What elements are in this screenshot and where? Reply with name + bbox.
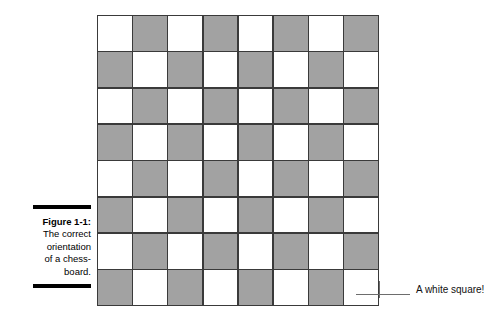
board-square-r1-c1 [98,16,132,51]
board-square-r7-c6 [274,234,308,269]
callout-tick-mark [379,281,380,298]
board-square-r1-c8 [344,16,378,51]
board-square-r6-c2 [133,198,167,233]
board-square-r1-c4 [204,16,238,51]
board-square-r1-c7 [309,16,343,51]
board-square-r8-c1 [98,270,132,305]
board-square-r8-c5 [239,270,273,305]
board-square-r4-c8 [344,125,378,160]
board-square-r5-c3 [168,161,202,196]
board-square-r8-c3 [168,270,202,305]
caption-rule-bottom [33,284,91,288]
board-square-r7-c7 [309,234,343,269]
figure-caption-title: Figure 1-1: [33,216,91,228]
board-square-r6-c8 [344,198,378,233]
board-square-r3-c4 [204,89,238,124]
board-square-r1-c3 [168,16,202,51]
caption-rule-top [33,205,91,209]
board-square-r6-c5 [239,198,273,233]
board-square-r4-c1 [98,125,132,160]
board-square-r8-c7 [309,270,343,305]
white-square-callout: A white square! [356,281,484,299]
board-square-r4-c3 [168,125,202,160]
board-square-r2-c1 [98,52,132,87]
board-square-r2-c5 [239,52,273,87]
board-square-r4-c5 [239,125,273,160]
callout-label: A white square! [416,281,484,299]
board-square-r4-c6 [274,125,308,160]
figure-caption-block: Figure 1-1: The correct orientation of a… [33,205,91,288]
board-square-r5-c7 [309,161,343,196]
board-square-r6-c7 [309,198,343,233]
figure-caption-line-2: orientation [33,241,91,253]
board-square-r6-c4 [204,198,238,233]
board-square-r7-c4 [204,234,238,269]
board-square-r4-c7 [309,125,343,160]
board-square-r7-c3 [168,234,202,269]
board-square-r3-c1 [98,89,132,124]
board-square-r3-c6 [274,89,308,124]
board-square-r8-c4 [204,270,238,305]
board-square-r1-c6 [274,16,308,51]
board-square-r6-c3 [168,198,202,233]
board-square-r6-c1 [98,198,132,233]
board-square-r2-c3 [168,52,202,87]
chessboard-diagram [97,15,379,306]
board-square-r4-c4 [204,125,238,160]
board-square-r7-c5 [239,234,273,269]
board-square-r3-c7 [309,89,343,124]
board-square-r2-c6 [274,52,308,87]
board-square-r3-c8 [344,89,378,124]
board-square-r1-c5 [239,16,273,51]
callout-leader-line [356,294,410,295]
board-square-r5-c1 [98,161,132,196]
figure-caption-line-3: of a chess- [33,253,91,265]
figure-caption-line-1: The correct [33,228,91,240]
board-square-r5-c8 [344,161,378,196]
board-square-r6-c6 [274,198,308,233]
board-square-r7-c2 [133,234,167,269]
board-square-r1-c2 [133,16,167,51]
board-square-r4-c2 [133,125,167,160]
board-square-r2-c7 [309,52,343,87]
board-square-r7-c1 [98,234,132,269]
board-square-r5-c2 [133,161,167,196]
board-square-r3-c3 [168,89,202,124]
board-square-r2-c4 [204,52,238,87]
board-square-r2-c2 [133,52,167,87]
board-square-r5-c4 [204,161,238,196]
board-square-r2-c8 [344,52,378,87]
board-square-r5-c5 [239,161,273,196]
board-square-r8-c6 [274,270,308,305]
board-square-r7-c8 [344,234,378,269]
figure-caption-line-4: board. [33,266,91,278]
figure-caption-text: Figure 1-1: The correct orientation of a… [33,216,91,278]
board-square-r3-c5 [239,89,273,124]
board-square-r3-c2 [133,89,167,124]
board-square-r8-c2 [133,270,167,305]
board-square-r5-c6 [274,161,308,196]
